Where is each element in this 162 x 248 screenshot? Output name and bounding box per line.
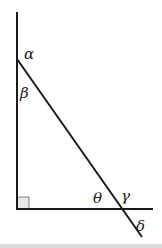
right-angle-marker [17,197,29,209]
angle-diagram: α β θ γ δ [0,0,162,248]
label-gamma: γ [121,187,130,205]
label-alpha: α [24,45,34,63]
bottom-border [0,244,162,248]
label-beta: β [19,84,29,102]
label-delta: δ [136,217,145,235]
label-theta: θ [93,189,102,207]
diagonal-transversal [17,59,142,237]
